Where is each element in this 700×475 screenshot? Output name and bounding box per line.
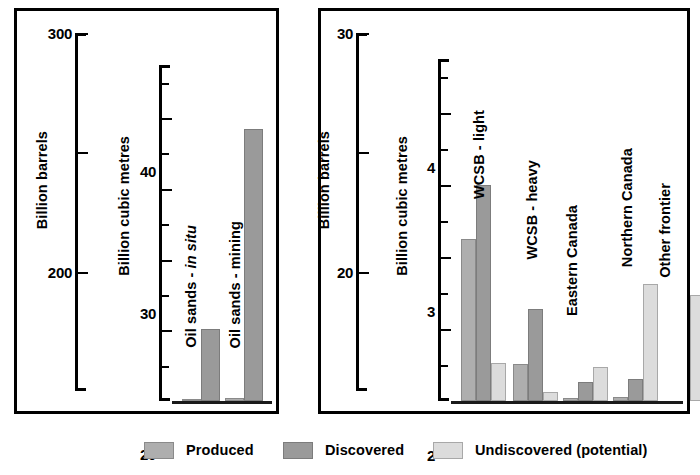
axis-minor-tick [161, 153, 169, 155]
axis-spine [356, 33, 359, 391]
axis-major-tick: 40 [161, 118, 172, 120]
legend-item-discovered: Discovered [283, 438, 404, 462]
legend-label-undiscovered: Undiscovered (potential) [475, 442, 647, 458]
axis-cap-bottom [356, 388, 367, 391]
left-outer-axis-title: Billion barrels [35, 131, 50, 229]
axis-major-tick: 20 [161, 260, 172, 262]
bar-discovered [528, 309, 543, 401]
axis-minor-tick [161, 366, 169, 368]
right-outer-axis-title: Billion barrels [317, 131, 332, 229]
axis-minor-tick [440, 77, 448, 79]
bar-produced [613, 397, 628, 401]
bar-produced [225, 398, 244, 401]
axis-tick-label: 20 [337, 264, 353, 279]
legend-label-produced: Produced [186, 442, 254, 458]
bar-group-label: WCSB - light [472, 110, 487, 199]
bar-undiscovered [593, 367, 608, 401]
legend-item-produced: Produced [144, 438, 254, 462]
bar-produced [461, 239, 476, 401]
bar-undiscovered [643, 284, 658, 401]
axis-minor-tick [440, 365, 448, 367]
plot-baseline [451, 401, 683, 404]
chart-figure: Billion barrels 100200300 Billion cubic … [0, 0, 700, 475]
axis-minor-tick [440, 221, 448, 223]
left-chart-panel: Billion barrels 100200300 Billion cubic … [14, 8, 279, 414]
bar-produced [563, 398, 578, 401]
axis-tick-label: 30 [140, 305, 156, 320]
bar-undiscovered [491, 363, 506, 401]
right-inner-axis: 1234 [438, 59, 450, 401]
axis-major-tick: 200 [77, 152, 88, 154]
right-chart-panel: Billion barrels 102030 Billion cubic met… [318, 8, 690, 414]
bar-discovered [476, 185, 491, 401]
legend-item-undiscovered: Undiscovered (potential) [433, 438, 647, 462]
legend-swatch-discovered [283, 442, 313, 459]
bar-undiscovered [690, 295, 700, 401]
axis-major-tick: 100 [77, 272, 88, 274]
axis-major-tick: 30 [358, 33, 369, 35]
axis-tick-label: 300 [48, 26, 72, 41]
axis-major-tick: 30 [161, 189, 172, 191]
axis-major-tick: 2 [440, 257, 451, 259]
plot-baseline [172, 401, 272, 404]
axis-minor-tick [440, 293, 448, 295]
axis-major-tick: 10 [161, 330, 172, 332]
bar-group-label: Northern Canada [620, 148, 635, 267]
bar-group-label: WCSB - heavy [525, 160, 540, 260]
axis-minor-tick [161, 83, 169, 85]
legend-swatch-undiscovered [433, 442, 463, 459]
bar-group-label: Oil sands - in situ [184, 225, 199, 348]
axis-tick-label: 3 [427, 304, 435, 319]
axis-spine [75, 33, 78, 391]
axis-tick-label: 200 [48, 264, 72, 279]
bar-discovered [628, 379, 643, 401]
axis-major-tick: 4 [440, 113, 451, 115]
right-inner-axis-title: Billion cubic metres [395, 136, 410, 276]
axis-major-tick: 1 [440, 329, 451, 331]
bar-produced [513, 364, 528, 401]
bar-group-label: Oil sands - mining [228, 221, 243, 348]
axis-spine [438, 59, 441, 401]
legend-swatch-produced [144, 442, 174, 459]
left-outer-axis: 100200300 [75, 33, 87, 391]
bar-produced [182, 399, 201, 401]
axis-cap-bottom [159, 398, 170, 401]
chart-legend: ProducedDiscoveredUndiscovered (potentia… [0, 438, 700, 466]
axis-minor-tick [440, 149, 448, 151]
legend-label-discovered: Discovered [325, 442, 404, 458]
axis-tick-label: 4 [427, 160, 435, 175]
axis-cap-bottom [438, 398, 449, 401]
axis-cap-top [159, 65, 170, 68]
left-inner-axis: 10203040 [159, 65, 171, 401]
axis-major-tick: 20 [358, 152, 369, 154]
axis-minor-tick [161, 224, 169, 226]
bar-discovered [578, 382, 593, 401]
bar-group-label: Eastern Canada [565, 205, 580, 316]
axis-major-tick: 3 [440, 185, 451, 187]
axis-major-tick: 10 [358, 272, 369, 274]
bar-group-label-italic: in situ [183, 225, 199, 268]
axis-major-tick: 300 [77, 33, 88, 35]
axis-spine [159, 65, 162, 401]
bar-discovered [201, 329, 220, 401]
axis-tick-label: 30 [337, 26, 353, 41]
right-outer-axis: 102030 [356, 33, 368, 391]
axis-cap-bottom [75, 388, 86, 391]
bar-discovered [244, 129, 263, 401]
right-plot-area: WCSB - lightWCSB - heavyEastern CanadaNo… [451, 59, 683, 404]
left-plot-area: Oil sands - in situOil sands - mining [172, 65, 272, 404]
axis-cap-top [438, 59, 449, 62]
bar-group-label: Other frontier [658, 183, 673, 278]
axis-minor-tick [161, 295, 169, 297]
axis-tick-label: 40 [140, 164, 156, 179]
bar-undiscovered [543, 392, 558, 401]
left-inner-axis-title: Billion cubic metres [117, 136, 132, 276]
